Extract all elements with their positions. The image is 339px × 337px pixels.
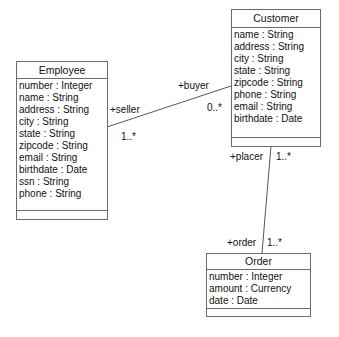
- attribute: state : String: [234, 65, 320, 77]
- role-label-buyer: +buyer: [178, 80, 209, 92]
- attribute: number : Integer: [19, 80, 107, 92]
- multiplicity-placer: 1..*: [276, 151, 291, 163]
- attribute: state : String: [19, 128, 107, 140]
- class-customer-header: Customer: [232, 10, 320, 28]
- class-employee-attributes: number : Integer name : String address :…: [17, 79, 107, 211]
- attribute: ssn : String: [19, 176, 107, 188]
- attribute: date : Date: [209, 295, 310, 307]
- attribute: birthdate : Date: [234, 113, 320, 125]
- class-order-attributes: number : Integer amount : Currency date …: [207, 270, 310, 309]
- attribute: number : Integer: [209, 271, 310, 283]
- attribute: email : String: [19, 152, 107, 164]
- class-customer[interactable]: Customer name : String address : String …: [231, 9, 321, 147]
- class-customer-name: Customer: [253, 12, 299, 24]
- class-order[interactable]: Order number : Integer amount : Currency…: [206, 253, 311, 317]
- class-employee-name: Employee: [39, 64, 86, 76]
- role-label-seller: +seller: [110, 104, 140, 116]
- attribute: amount : Currency: [209, 283, 310, 295]
- multiplicity-buyer: 0..*: [207, 102, 222, 114]
- role-label-placer: +placer: [230, 151, 263, 163]
- multiplicity-order: 1..*: [267, 237, 282, 249]
- attribute: address : String: [19, 104, 107, 116]
- attribute: phone : String: [19, 188, 107, 200]
- attribute: city : String: [234, 53, 320, 65]
- role-label-order: +order: [227, 237, 256, 249]
- class-order-header: Order: [207, 254, 310, 270]
- class-employee-header: Employee: [17, 62, 107, 79]
- multiplicity-seller: 1..*: [121, 131, 136, 143]
- attribute: zipcode : String: [234, 77, 320, 89]
- attribute: city : String: [19, 116, 107, 128]
- attribute: zipcode : String: [19, 140, 107, 152]
- attribute: name : String: [19, 92, 107, 104]
- attribute: phone : String: [234, 89, 320, 101]
- attribute: name : String: [234, 29, 320, 41]
- class-customer-attributes: name : String address : String city : St…: [232, 28, 320, 138]
- attribute: address : String: [234, 41, 320, 53]
- class-order-name: Order: [245, 255, 272, 267]
- attribute: email : String: [234, 101, 320, 113]
- class-employee[interactable]: Employee number : Integer name : String …: [16, 61, 108, 220]
- attribute: birthdate : Date: [19, 164, 107, 176]
